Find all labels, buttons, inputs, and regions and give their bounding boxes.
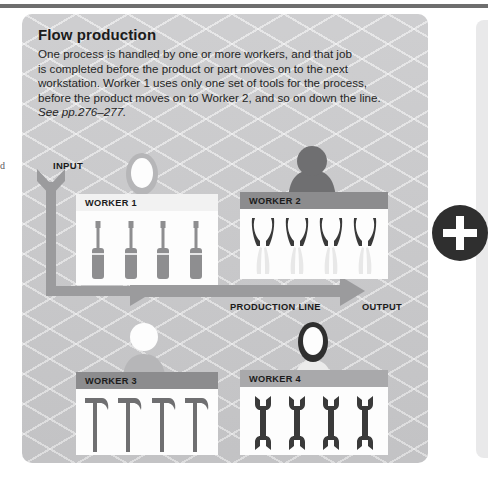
screwdriver-icon: [122, 219, 140, 281]
worker-4-tool-tray: [240, 387, 388, 455]
wrench-icon: [354, 394, 376, 452]
worker-1-label-bar: WORKER 1: [76, 194, 218, 211]
worker-3-tool-tray: [76, 389, 218, 455]
top-rule: [0, 4, 488, 8]
wrench-icon: [286, 394, 308, 452]
worker-2-tool-tray: [240, 209, 388, 279]
hammer-icon: [84, 395, 110, 453]
output-label: OUTPUT: [362, 302, 402, 312]
screwdriver-icon: [187, 219, 205, 281]
worker-3-label: WORKER 3: [85, 376, 137, 386]
wrench-icon: [252, 394, 274, 452]
margin-note: d: [0, 160, 10, 171]
workstation-worker-4: WORKER 4: [240, 320, 388, 460]
flow-production-panel: Flow production One process is handled b…: [22, 14, 428, 463]
worker-1-label: WORKER 1: [85, 198, 137, 208]
hammer-icon: [151, 395, 177, 453]
worker-4-label-bar: WORKER 4: [240, 370, 388, 387]
worker-2-label-bar: WORKER 2: [240, 192, 388, 209]
pliers-icon: [353, 216, 377, 276]
pliers-icon: [319, 216, 343, 276]
screwdriver-icon: [154, 219, 172, 281]
workstation-worker-3: WORKER 3: [76, 320, 218, 460]
worker-4-label: WORKER 4: [249, 374, 301, 384]
production-line-label: PRODUCTION LINE: [230, 302, 321, 312]
screwdriver-icon: [89, 219, 107, 281]
worker-2-label: WORKER 2: [249, 196, 301, 206]
wrench-icon: [320, 394, 342, 452]
worker-1-tool-tray: [76, 211, 218, 285]
pliers-icon: [285, 216, 309, 276]
hammer-icon: [117, 395, 143, 453]
workstation-worker-1: WORKER 1: [76, 150, 218, 290]
workstation-worker-2: WORKER 2: [240, 144, 388, 290]
hammer-icon: [184, 395, 210, 453]
pliers-icon: [251, 216, 275, 276]
worker-3-label-bar: WORKER 3: [76, 372, 218, 389]
plus-icon: [432, 205, 488, 261]
